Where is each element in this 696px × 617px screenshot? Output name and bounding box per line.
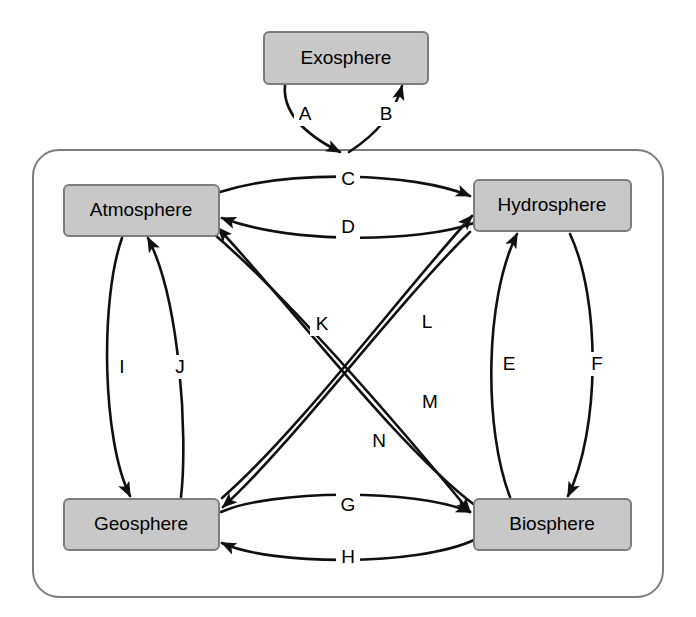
node-hydrosphere[interactable]: Hydrosphere	[474, 180, 631, 231]
edge-label-C: C	[336, 167, 360, 191]
svg-text:K: K	[316, 313, 329, 334]
edge-label-D: D	[336, 215, 360, 239]
svg-text:G: G	[341, 494, 356, 515]
diagram-canvas: A B C D E F G H	[0, 0, 696, 617]
svg-text:A: A	[299, 103, 312, 124]
edge-label-L: L	[417, 310, 437, 334]
edge-label-G: G	[336, 493, 360, 517]
svg-text:C: C	[341, 168, 355, 189]
edge-label-H: H	[336, 545, 360, 569]
svg-text:M: M	[422, 391, 438, 412]
edge-label-M: M	[416, 390, 444, 414]
edge-label-A: A	[294, 102, 316, 126]
edge-label-F: F	[586, 352, 608, 376]
svg-text:H: H	[341, 546, 355, 567]
edge-label-K: K	[310, 312, 334, 336]
node-biosphere[interactable]: Biosphere	[474, 499, 631, 550]
svg-text:B: B	[380, 103, 393, 124]
svg-text:D: D	[341, 216, 355, 237]
svg-text:E: E	[503, 353, 516, 374]
svg-text:L: L	[422, 311, 433, 332]
edge-label-E: E	[498, 352, 520, 376]
svg-text:J: J	[175, 356, 185, 377]
svg-text:I: I	[119, 356, 124, 377]
edge-label-N: N	[367, 429, 391, 453]
node-hydrosphere-label: Hydrosphere	[498, 194, 607, 215]
edge-label-J: J	[170, 355, 190, 379]
node-exosphere[interactable]: Exosphere	[264, 32, 428, 84]
node-biosphere-label: Biosphere	[509, 513, 595, 534]
svg-text:N: N	[372, 430, 386, 451]
edge-L-path	[222, 216, 472, 498]
node-geosphere[interactable]: Geosphere	[64, 499, 219, 550]
diagram-svg: A B C D E F G H	[0, 0, 696, 617]
edge-label-B: B	[375, 102, 397, 126]
node-exosphere-label: Exosphere	[301, 47, 392, 68]
node-geosphere-label: Geosphere	[94, 513, 188, 534]
svg-text:F: F	[591, 353, 603, 374]
node-atmosphere[interactable]: Atmosphere	[64, 185, 219, 236]
edge-label-I: I	[113, 355, 131, 379]
node-atmosphere-label: Atmosphere	[90, 199, 192, 220]
